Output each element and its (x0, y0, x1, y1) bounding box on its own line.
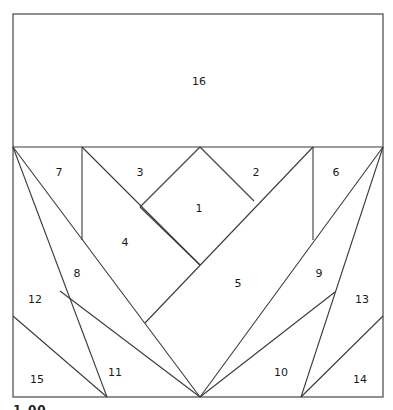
seam-line (200, 147, 254, 201)
piece-label-9: 9 (316, 267, 323, 280)
piece-label-12: 12 (28, 293, 42, 306)
seam-lines (13, 147, 383, 397)
piece-label-6: 6 (333, 166, 340, 179)
piece-label-16: 16 (192, 75, 206, 88)
seam-line (60, 291, 200, 397)
piece-label-1: 1 (196, 202, 203, 215)
seam-line (200, 147, 383, 397)
piece-label-8: 8 (74, 267, 81, 280)
seam-line (140, 147, 200, 207)
seam-line (200, 292, 335, 397)
footer-text-partial: 1.00 (13, 403, 47, 410)
piece-label-5: 5 (235, 277, 242, 290)
piece-label-7: 7 (56, 166, 63, 179)
seam-line (13, 147, 200, 397)
piece-label-11: 11 (108, 366, 122, 379)
seam-line (301, 316, 383, 397)
piece-label-2: 2 (253, 166, 260, 179)
piece-label-13: 13 (355, 293, 369, 306)
piece-label-3: 3 (137, 166, 144, 179)
piece-label-15: 15 (30, 373, 44, 386)
piece-label-14: 14 (353, 373, 367, 386)
piece-label-10: 10 (274, 366, 288, 379)
seam-line (13, 147, 107, 397)
piece-label-4: 4 (122, 236, 129, 249)
seam-line (13, 316, 107, 397)
